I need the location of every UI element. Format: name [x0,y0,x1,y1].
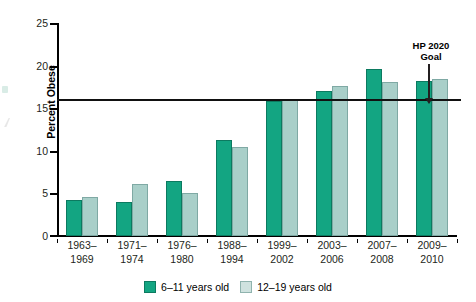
bar-group [266,99,298,236]
x-tick-label-line: 1988– [204,239,260,253]
x-tick-label-line: 2006 [304,253,360,267]
x-tick-label-line: 1963– [54,239,110,253]
x-tick-label-line: 2007– [354,239,410,253]
bar [232,147,248,236]
legend-item-6-11: 6–11 years old [144,281,229,293]
goal-annotation-line-2: Goal [395,51,467,62]
y-tick-mark-20 [50,66,57,68]
legend-label-6-11: 6–11 years old [161,281,229,293]
x-tick-label-line: 1974 [104,253,160,267]
x-tick-label: 1976–1980 [154,239,210,266]
bar [316,91,332,236]
x-tick-label: 1971–1974 [104,239,160,266]
y-tick-mark-10 [50,151,57,153]
bar-group [66,197,98,236]
y-tick-mark-25 [50,23,57,25]
bar [432,79,448,236]
x-axis-tick-labels: 1963–19691971–19741976–19801988–19941999… [57,239,457,273]
goal-arrow-shaft [428,64,430,101]
scan-artifact-slash [1,118,10,127]
y-tick-mark-15 [50,108,57,110]
x-tick-label-line: 2010 [404,253,460,267]
y-tick-label-25: 25 [18,18,48,28]
y-axis-tick-labels: 25 20 15 10 5 0 [14,0,48,302]
bar [416,81,432,236]
bar-group [116,184,148,236]
x-tick-label-line: 2009– [404,239,460,253]
goal-annotation-line-1: HP 2020 [395,40,467,51]
bar [266,101,282,236]
x-tick-label-line: 1980 [154,253,210,267]
y-tick-label-10: 10 [18,146,48,156]
x-tick-label: 2009–2010 [404,239,460,266]
y-tick-label-0: 0 [18,231,48,241]
bar [66,200,82,236]
bar-group [216,140,248,236]
y-tick-label-5: 5 [18,188,48,198]
x-tick-label-line: 1971– [104,239,160,253]
x-tick-label-line: 1994 [204,253,260,267]
legend-swatch-icon-6-11 [144,281,156,293]
bar [166,181,182,236]
x-tick-label-line: 2003– [304,239,360,253]
bar [132,184,148,236]
bar [82,197,98,236]
obesity-trend-bar-chart: Percent Obese 25 20 15 10 5 0 HP 2020 Go… [0,0,476,302]
y-tick-mark-0 [50,235,57,237]
hp-2020-goal-annotation: HP 2020 Goal [395,40,467,62]
bar-group [366,69,398,236]
goal-arrow-head-icon [425,98,433,104]
y-tick-mark-5 [50,193,57,195]
y-tick-label-20: 20 [18,61,48,71]
y-tick-label-15: 15 [18,103,48,113]
scan-artifact-mark [2,86,8,93]
bar [382,82,398,236]
bar [182,193,198,236]
x-tick-label: 1988–1994 [204,239,260,266]
x-tick-label: 2003–2006 [304,239,360,266]
x-tick-label: 2007–2008 [354,239,410,266]
legend-swatch-icon-12-19 [240,281,252,293]
bar [216,140,232,236]
x-tick-label: 1963–1969 [54,239,110,266]
x-tick-label-line: 1969 [54,253,110,267]
legend-label-12-19: 12–19 years old [257,281,332,293]
chart-legend: 6–11 years old 12–19 years old [0,281,476,293]
bar [366,69,382,236]
x-tick-label-line: 1999– [254,239,310,253]
bar-group [316,86,348,236]
bar [116,202,132,236]
bar [282,99,298,236]
legend-item-12-19: 12–19 years old [240,281,332,293]
x-tick-mark [457,239,458,243]
bar-group [166,181,198,236]
x-tick-label-line: 2002 [254,253,310,267]
x-tick-label: 1999–2002 [254,239,310,266]
bar [332,86,348,236]
x-tick-label-line: 2008 [354,253,410,267]
hp-2020-goal-reference-line [57,99,461,102]
x-tick-label-line: 1976– [154,239,210,253]
